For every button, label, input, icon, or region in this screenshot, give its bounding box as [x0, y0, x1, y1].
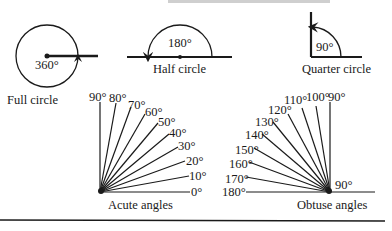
svg-text:80°: 80°	[109, 91, 127, 105]
quarter-circle-figure: 90° Quarter circle	[302, 12, 372, 76]
half-circle-angle-label: 180°	[168, 36, 192, 50]
quarter-circle-angle-label: 90°	[316, 40, 334, 54]
obtuse-right-label: 90°	[335, 178, 353, 192]
svg-text:20°: 20°	[186, 154, 204, 168]
svg-text:170°: 170°	[225, 172, 249, 186]
svg-text:140°: 140°	[245, 128, 269, 142]
title-cutoff	[168, 0, 330, 3]
svg-text:130°: 130°	[255, 115, 279, 129]
angle-types-diagram: 360° Full circle 180° Half circle 90° Qu…	[0, 0, 392, 231]
obtuse-angle-labels: 90° 100° 110° 120° 130° 140° 150° 160° 1…	[222, 90, 353, 199]
obtuse-angles-caption: Obtuse angles	[297, 198, 368, 212]
svg-text:100°: 100°	[306, 90, 330, 104]
full-circle-figure: 360° Full circle	[7, 25, 98, 107]
svg-text:90°: 90°	[89, 90, 107, 104]
svg-text:180°: 180°	[222, 185, 246, 199]
svg-text:30°: 30°	[178, 139, 196, 153]
full-circle-caption: Full circle	[7, 93, 58, 107]
acute-angles-fan	[98, 102, 190, 194]
quarter-circle-caption: Quarter circle	[302, 62, 372, 76]
svg-text:90°: 90°	[328, 90, 346, 104]
svg-text:70°: 70°	[128, 98, 146, 112]
acute-angle-labels: 0° 10° 20° 30° 40° 50° 60° 70° 80° 90°	[89, 90, 207, 199]
acute-angles-caption: Acute angles	[108, 198, 173, 212]
full-circle-angle-label: 360°	[35, 58, 59, 72]
half-circle-caption: Half circle	[153, 62, 207, 76]
bottom-divider	[0, 220, 385, 221]
svg-text:10°: 10°	[189, 169, 207, 183]
svg-text:0°: 0°	[191, 185, 202, 199]
svg-text:150°: 150°	[235, 143, 259, 157]
svg-text:60°: 60°	[145, 105, 163, 119]
svg-text:160°: 160°	[229, 157, 253, 171]
half-circle-figure: 180° Half circle	[127, 25, 232, 76]
